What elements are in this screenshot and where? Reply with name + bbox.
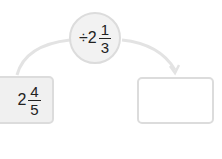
input-whole: 2 (17, 91, 26, 109)
operation-fraction: 1 3 (99, 22, 111, 55)
input-numerator: 4 (28, 84, 40, 101)
input-box: 2 4 5 (0, 76, 54, 124)
input-denominator: 5 (30, 101, 38, 117)
input-fraction: 4 5 (28, 84, 40, 117)
output-arc (122, 40, 175, 70)
operation-whole: 2 (88, 29, 97, 47)
input-arc (17, 40, 70, 75)
operation-numerator: 1 (99, 22, 111, 39)
operator: ÷ (79, 29, 88, 47)
operation-denominator: 3 (101, 39, 109, 55)
answer-box[interactable] (137, 77, 214, 124)
operation-circle: ÷ 2 1 3 (69, 12, 121, 64)
